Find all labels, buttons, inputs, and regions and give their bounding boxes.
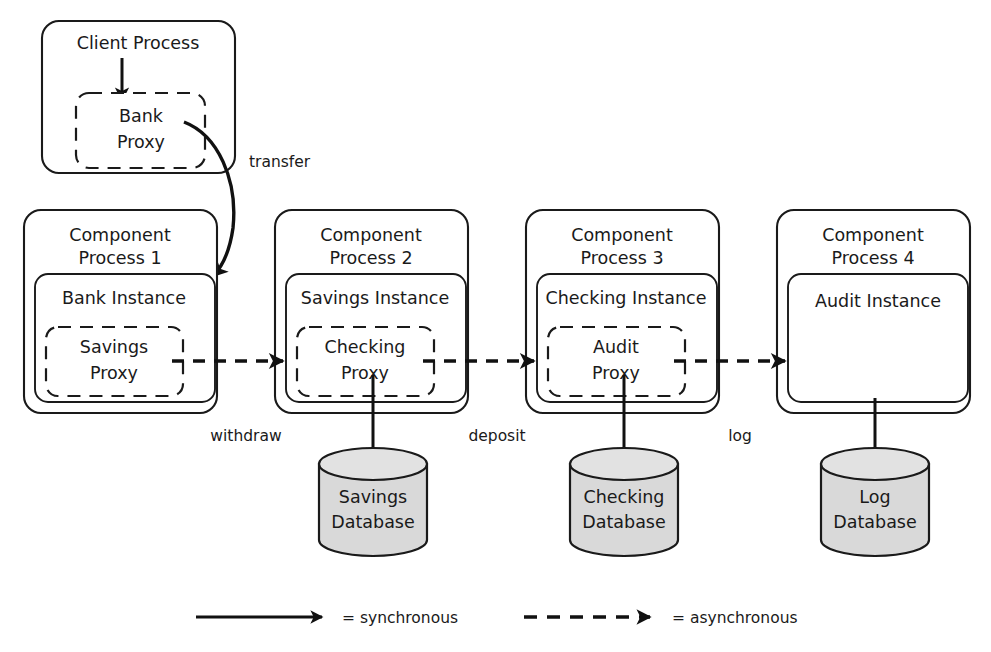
process-3-instance-label: Checking Instance (546, 288, 707, 308)
audit-proxy-label-line1: Audit (593, 337, 639, 357)
savings-db-label-line1: Savings (339, 487, 407, 507)
bank-proxy-label-line2: Proxy (117, 132, 165, 152)
savings-db-top (319, 448, 427, 480)
bank-proxy-fill (76, 93, 205, 168)
savings-proxy-label-line1: Savings (80, 337, 148, 357)
architecture-diagram: Client Process Bank Proxy transfer Compo… (0, 0, 991, 652)
log-db-label-line1: Log (859, 487, 890, 507)
bank-proxy-label-line1: Bank (119, 106, 164, 126)
checking-proxy-label-line1: Checking (325, 337, 406, 357)
client-process-group: Client Process Bank Proxy (42, 21, 235, 173)
log-database-group: Log Database (821, 398, 929, 556)
process-3-label-line1: Component (571, 225, 673, 245)
process-3-label-line2: Process 3 (580, 248, 663, 268)
process-1-label-line2: Process 1 (78, 248, 161, 268)
process-1-label-line1: Component (69, 225, 171, 245)
process-2-label-line2: Process 2 (329, 248, 412, 268)
process-2-instance-label: Savings Instance (301, 288, 449, 308)
diagram-canvas: Client Process Bank Proxy transfer Compo… (0, 0, 991, 652)
deposit-edge-label: deposit (468, 427, 525, 445)
component-process-1-group: Component Process 1 Bank Instance Saving… (24, 210, 217, 413)
process-4-label-line1: Component (822, 225, 924, 245)
log-db-label-line2: Database (833, 512, 917, 532)
checking-proxy-label-line2: Proxy (341, 363, 389, 383)
checking-db-label-line1: Checking (584, 487, 665, 507)
client-process-label: Client Process (77, 33, 200, 53)
component-process-4-group: Component Process 4 Audit Instance (777, 210, 970, 413)
log-edge-label: log (728, 427, 752, 445)
process-4-instance-label: Audit Instance (815, 291, 941, 311)
process-4-label-line2: Process 4 (831, 248, 914, 268)
checking-db-top (570, 448, 678, 480)
log-db-top (821, 448, 929, 480)
audit-proxy-label-line2: Proxy (592, 363, 640, 383)
savings-proxy-label-line2: Proxy (90, 363, 138, 383)
legend-group: = synchronous = asynchronous (196, 609, 798, 627)
checking-db-label-line2: Database (582, 512, 666, 532)
process-1-instance-label: Bank Instance (62, 288, 186, 308)
withdraw-edge-label: withdraw (210, 427, 282, 445)
legend-synchronous-label: = synchronous (342, 609, 458, 627)
legend-asynchronous-label: = asynchronous (672, 609, 798, 627)
transfer-edge-label: transfer (249, 153, 311, 171)
process-2-label-line1: Component (320, 225, 422, 245)
savings-db-label-line2: Database (331, 512, 415, 532)
